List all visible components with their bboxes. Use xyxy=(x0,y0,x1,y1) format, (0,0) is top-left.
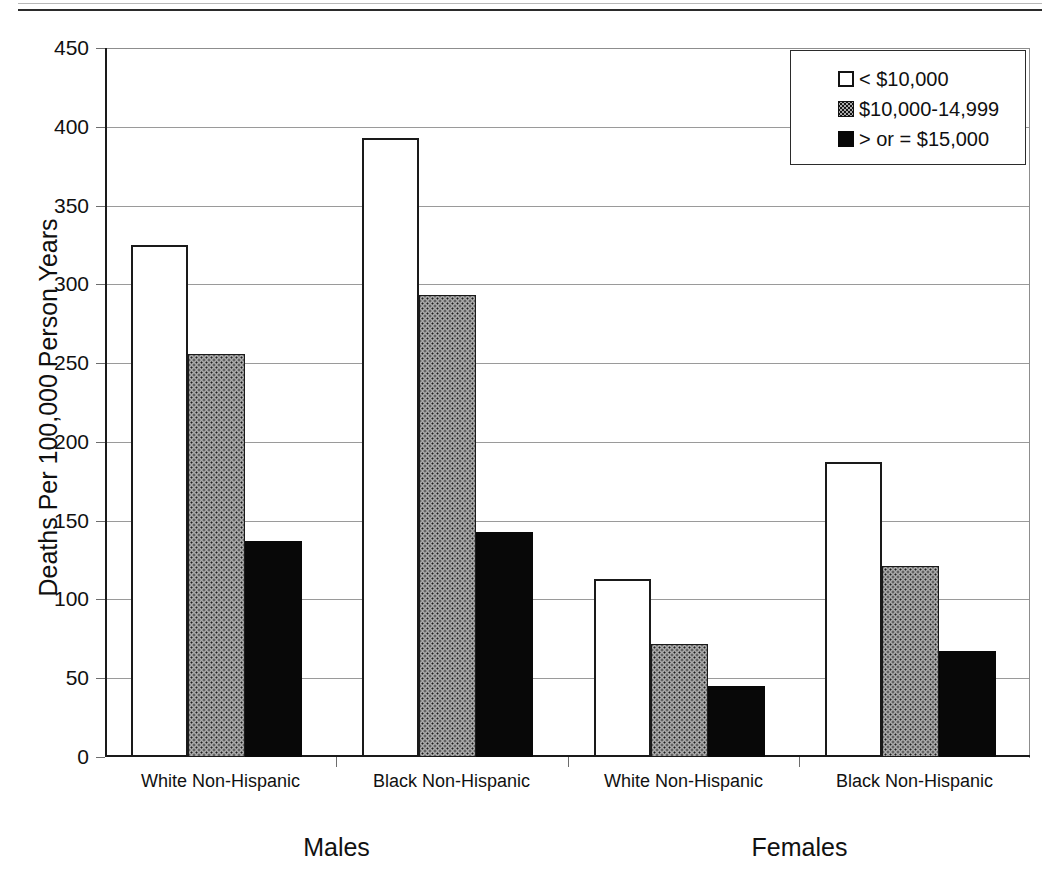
y-axis-tick xyxy=(96,284,105,285)
y-axis-tick-label: 400 xyxy=(54,116,89,137)
dotted-gray-square-icon xyxy=(838,101,854,117)
legend-item: > or = $15,000 xyxy=(791,124,1025,154)
x-axis-group-separator xyxy=(336,757,337,767)
y-axis-tick xyxy=(96,599,105,600)
bar-chart: Deaths Per 100,000 Person Years 45040035… xyxy=(0,0,1059,890)
bar xyxy=(188,354,245,757)
x-axis-group-label: Males xyxy=(105,834,568,861)
y-axis-tick-label: 100 xyxy=(54,588,89,609)
bar xyxy=(419,295,476,757)
y-axis-tick xyxy=(96,48,105,49)
legend-item: < $10,000 xyxy=(791,64,1025,94)
legend: < $10,000$10,000-14,999> or = $15,000 xyxy=(790,50,1026,165)
x-axis-category-label: White Non-Hispanic xyxy=(105,771,336,791)
y-axis-tick-label: 150 xyxy=(54,510,89,531)
legend-item-label: $10,000-14,999 xyxy=(859,99,999,119)
black-square-icon xyxy=(838,131,854,147)
bar xyxy=(939,651,996,757)
y-axis-tick xyxy=(96,521,105,522)
y-axis-tick xyxy=(96,206,105,207)
y-axis-tick-labels: 450400350300250200150100500 xyxy=(0,0,90,890)
y-axis-tick-label: 200 xyxy=(54,431,89,452)
bar xyxy=(825,462,882,757)
y-axis-tick xyxy=(96,363,105,364)
y-axis-tick-label: 450 xyxy=(54,37,89,58)
y-axis-tick xyxy=(96,678,105,679)
y-axis-tick xyxy=(96,442,105,443)
x-axis-category-label: Black Non-Hispanic xyxy=(336,771,567,791)
x-axis-group-separator xyxy=(568,757,569,767)
y-axis-tick xyxy=(96,127,105,128)
bar xyxy=(708,686,765,757)
y-axis-tick-label: 350 xyxy=(54,195,89,216)
bar xyxy=(245,541,302,757)
bar xyxy=(882,566,939,757)
x-axis-category-label: Black Non-Hispanic xyxy=(799,771,1030,791)
white-square-icon xyxy=(838,71,854,87)
legend-item-label: > or = $15,000 xyxy=(859,129,989,149)
y-axis-tick xyxy=(96,757,105,758)
y-axis-tick-label: 0 xyxy=(77,746,89,767)
x-axis-group-separator xyxy=(799,757,800,767)
bar xyxy=(362,138,419,757)
x-axis-group-label: Females xyxy=(568,834,1031,861)
bar xyxy=(476,532,533,757)
legend-item-label: < $10,000 xyxy=(859,69,949,89)
bar xyxy=(131,245,188,757)
bar xyxy=(594,579,651,757)
x-axis-category-label: White Non-Hispanic xyxy=(568,771,799,791)
bar xyxy=(651,644,708,757)
y-axis-tick-label: 250 xyxy=(54,352,89,373)
y-axis-tick-label: 50 xyxy=(66,667,89,688)
y-axis-tick-label: 300 xyxy=(54,273,89,294)
legend-item: $10,000-14,999 xyxy=(791,94,1025,124)
